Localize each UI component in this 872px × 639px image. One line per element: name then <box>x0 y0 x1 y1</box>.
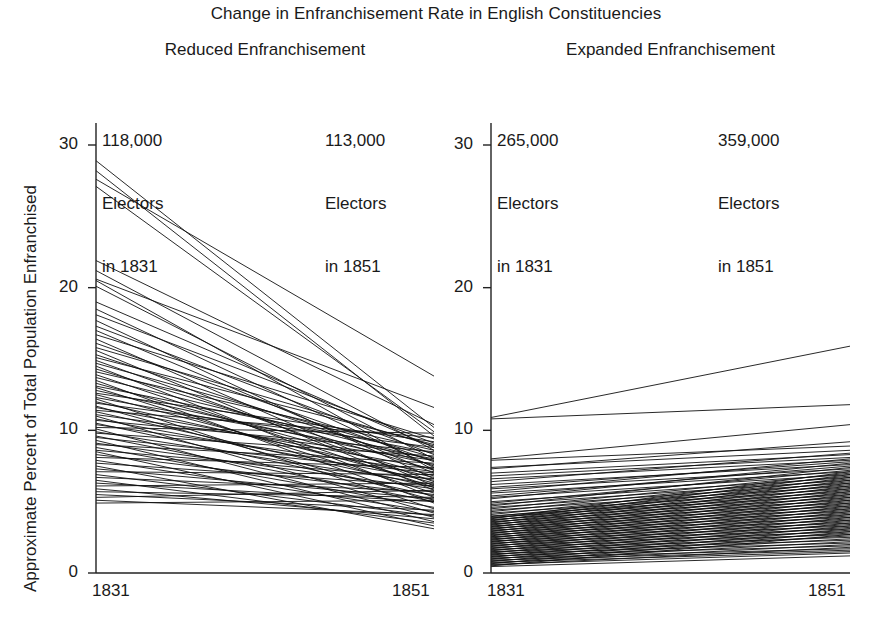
slope-line <box>96 179 434 376</box>
slope-line <box>96 466 434 529</box>
plot-area <box>0 0 872 639</box>
slope-line <box>491 442 850 469</box>
slope-line <box>96 343 434 461</box>
slopegraph-figure: Change in Enfranchisement Rate in Englis… <box>0 0 872 639</box>
slope-lines-expanded <box>491 346 850 566</box>
slope-lines-reduced <box>96 161 434 529</box>
slope-line <box>491 425 850 459</box>
slope-line <box>491 460 850 479</box>
slope-line <box>96 161 434 428</box>
